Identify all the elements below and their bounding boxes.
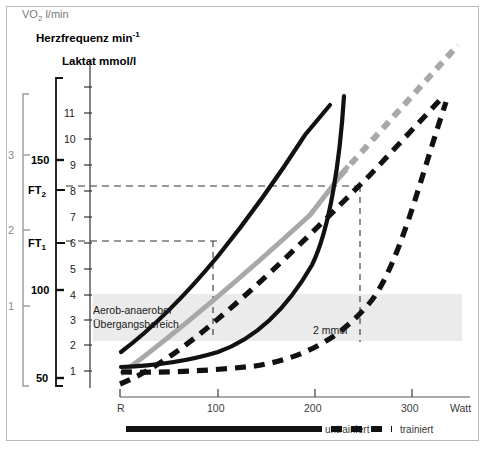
chart-page: VO2 l/min Herzfrequenz min-1 Laktat mmol… xyxy=(0,0,487,449)
two-mmol-label: 2 mmol xyxy=(313,324,347,336)
laktat-axis xyxy=(84,60,92,388)
physiology-chart: VO2 l/min Herzfrequenz min-1 Laktat mmol… xyxy=(0,0,487,449)
ft2-label: FT2 xyxy=(28,184,46,199)
laktat-tick-10: 10 xyxy=(64,133,76,145)
watt-axis xyxy=(120,389,470,397)
vo2-tick-1: 1 xyxy=(8,300,14,312)
legend: untrainiert trainiert xyxy=(126,424,434,435)
watt-tick-100: 100 xyxy=(207,402,225,414)
laktat-tick-2: 2 xyxy=(70,339,76,351)
laktat-tick-8: 8 xyxy=(70,185,76,197)
laktat-tick-9: 9 xyxy=(70,159,76,171)
watt-tick-200: 200 xyxy=(304,402,322,414)
legend-label-trainiert: trainiert xyxy=(400,424,434,435)
hf-tick-50: 50 xyxy=(36,372,48,384)
watt-tick-300: 300 xyxy=(401,402,419,414)
laktat-tick-4: 4 xyxy=(70,289,76,301)
curve-vo2-trainiert xyxy=(340,45,458,176)
vo2-tick-2: 2 xyxy=(8,224,14,236)
axis-title-vo2: VO2 l/min xyxy=(22,8,69,23)
transition-band-label-line2: Übergangsbereich xyxy=(93,318,179,330)
herzfrequenz-axis xyxy=(56,78,65,386)
ft1-label: FT1 xyxy=(28,237,46,252)
hf-tick-100: 100 xyxy=(31,284,49,296)
laktat-tick-7: 7 xyxy=(70,211,76,223)
axis-title-herzfrequenz: Herzfrequenz min-1 xyxy=(36,30,140,44)
laktat-tick-11: 11 xyxy=(64,107,75,119)
axis-title-laktat: Laktat mmol/l xyxy=(62,55,136,67)
transition-band-label-line1: Aerob-anaerober xyxy=(93,304,173,316)
watt-tick-R: R xyxy=(117,402,125,414)
laktat-tick-1: 1 xyxy=(70,365,76,377)
hf-tick-150: 150 xyxy=(31,154,49,166)
watt-axis-unit: Watt xyxy=(450,402,471,414)
vo2-tick-3: 3 xyxy=(8,149,14,161)
laktat-tick-5: 5 xyxy=(70,263,76,275)
laktat-tick-6: 6 xyxy=(70,237,76,249)
laktat-tick-3: 3 xyxy=(70,314,76,326)
